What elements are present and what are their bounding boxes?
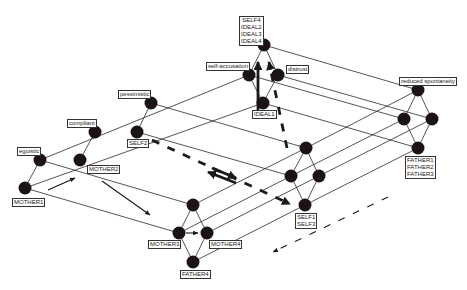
node-label: distrust [286,65,309,74]
node-label: MOTHER3 [148,240,181,249]
node-label-text: distrust [288,66,307,73]
node-label: MOTHER1 [12,198,45,207]
node-label-text: FATHER4 [182,271,209,278]
transition-arrows [48,62,388,252]
lattice-node [187,256,200,269]
node-label-text: FATHER1 [407,157,434,164]
node-label-text: SELF1 [297,214,315,221]
node-label: MOTHER4 [209,240,242,249]
node-label-text: MOTHER1 [14,199,43,206]
lattice-node [300,142,313,155]
node-label-text: SELF2 [129,140,147,147]
lattice-node [398,113,411,126]
node-label: pessimistic [118,90,151,99]
lattice-node [257,97,270,110]
lattice-node [74,154,87,167]
node-label: self-accusation [206,62,250,71]
lattice-node [272,69,285,82]
lattice-node [285,170,298,183]
lattice-node [426,113,439,126]
lattice-node [19,182,32,195]
lattice-node [187,199,200,212]
node-label-text: MOTHER2 [89,166,118,173]
lattice-node [313,170,326,183]
node-label: MOTHER2 [87,165,120,174]
node-label: SELF2 [127,139,149,148]
node-label: FATHER1FATHER2FATHER3 [405,156,436,179]
node-label-text: SELF3 [297,221,315,228]
lattice-node [131,126,144,139]
node-label-text: pessimistic [120,91,149,98]
node-label-text: IDEAL1 [254,111,275,118]
node-label-text: MOTHER3 [150,241,179,248]
node-label-text: IDEAL2 [241,24,262,31]
arrow-thick-solid [212,168,236,178]
lattice-node [201,227,214,240]
node-label-text: self-accusation [208,63,248,70]
node-label: reduced spontaneity [399,77,457,86]
arrow-thin-solid [48,178,75,190]
lattice-edge [25,188,179,233]
lattice-node [173,227,186,240]
lattice-node [299,199,312,212]
node-label-text: SELF4 [241,17,262,24]
node-label: IDEAL1 [252,110,277,119]
node-label: FATHER4 [180,270,211,279]
node-label-text: IDEAL4 [241,38,262,45]
node-label: egoistic [17,147,41,156]
node-label: compliant [67,119,97,128]
node-label-text: IDEAL3 [241,31,262,38]
node-label-text: MOTHER4 [211,241,240,248]
node-label-text: egoistic [19,148,39,155]
arrow-thin-dashed [273,197,388,252]
node-label-text: reduced spontaneity [401,78,455,85]
lattice-nodes [19,39,439,269]
lattice-edges [25,45,432,262]
node-label: SELF1SELF3 [295,213,317,229]
arrow-thin-solid [102,181,150,215]
node-label-text: FATHER2 [407,164,434,171]
lattice-node [412,142,425,155]
node-label-text: FATHER3 [407,171,434,178]
node-label: SELF4IDEAL2IDEAL3IDEAL4 [239,16,264,46]
node-label-text: compliant [69,120,95,127]
